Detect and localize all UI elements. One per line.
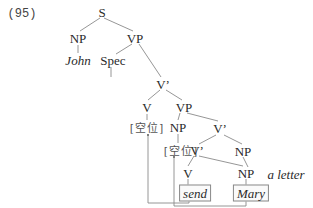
node-VP-top: VP	[127, 32, 144, 45]
leaf-send: send	[179, 185, 211, 202]
leaf-john: John	[65, 54, 90, 67]
node-vbar-2: V’	[213, 122, 227, 135]
node-V-lower: V	[183, 167, 192, 180]
node-NP-object2: NP	[235, 145, 252, 158]
node-S: S	[98, 6, 105, 19]
node-vbar-1: V’	[156, 78, 170, 91]
node-NP-subject: NP	[70, 32, 87, 45]
node-spec: Spec	[100, 54, 125, 67]
node-NP-lower: NP	[238, 167, 255, 180]
node-vbar-3: V’	[190, 144, 204, 157]
empty-position-1: [空位]	[130, 122, 165, 135]
tree-lines	[0, 0, 313, 208]
leaf-mary: Mary	[233, 185, 269, 202]
example-number: (95)	[8, 8, 37, 21]
node-NP-inner: NP	[170, 121, 187, 134]
leaf-a-letter: a letter	[267, 168, 304, 181]
node-V-upper: V	[142, 101, 151, 114]
node-VP-inner: VP	[176, 101, 193, 114]
